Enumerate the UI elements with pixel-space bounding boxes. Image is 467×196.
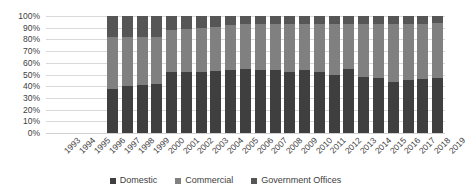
- bar-segment-government-offices: [196, 16, 207, 28]
- bar-segment-government-offices: [107, 16, 118, 37]
- bar-segment-commercial: [107, 37, 118, 88]
- bar-segment-government-offices: [314, 16, 325, 24]
- bar-segment-domestic: [166, 72, 177, 133]
- bar-segment-government-offices: [181, 16, 192, 29]
- bar-segment-government-offices: [225, 16, 236, 25]
- bar-segment-commercial: [329, 24, 340, 74]
- bar-segment-government-offices: [373, 16, 384, 24]
- bar-segment-commercial: [225, 25, 236, 69]
- bar-2001: [166, 16, 177, 133]
- bar-1998: [122, 16, 133, 133]
- bar-segment-domestic: [417, 79, 428, 133]
- y-axis-tick-label: 30%: [23, 94, 40, 103]
- bar-segment-domestic: [403, 80, 414, 133]
- y-axis-tick-label: 10%: [23, 117, 40, 126]
- bar-2015: [373, 16, 384, 133]
- bar-segment-domestic: [343, 69, 354, 133]
- legend-label: Government Offices: [261, 176, 341, 185]
- plot-area: [46, 16, 445, 133]
- bar-2011: [314, 16, 325, 133]
- bar-segment-domestic: [210, 71, 221, 133]
- bar-segment-government-offices: [343, 16, 354, 24]
- bar-segment-domestic: [151, 84, 162, 133]
- y-axis-tick-label: 100%: [18, 12, 40, 21]
- bar-segment-government-offices: [403, 16, 414, 24]
- legend-item-government-offices[interactable]: Government Offices: [251, 176, 341, 185]
- bar-2012: [329, 16, 340, 133]
- bar-segment-commercial: [181, 29, 192, 72]
- bar-segment-domestic: [240, 69, 251, 133]
- y-axis-tick-label: 40%: [23, 82, 40, 91]
- bar-segment-domestic: [137, 85, 148, 133]
- bar-segment-government-offices: [284, 16, 295, 24]
- bar-segment-domestic: [255, 70, 266, 133]
- bar-1997: [107, 16, 118, 133]
- legend-item-domestic[interactable]: Domestic: [110, 176, 158, 185]
- bar-segment-government-offices: [122, 16, 133, 37]
- bar-segment-domestic: [299, 70, 310, 133]
- bar-2004: [210, 16, 221, 133]
- bar-segment-government-offices: [417, 16, 428, 24]
- bar-segment-commercial: [314, 24, 325, 72]
- bar-segment-government-offices: [255, 16, 266, 24]
- legend-item-commercial[interactable]: Commercial: [175, 176, 233, 185]
- bar-series-container: [46, 16, 445, 133]
- bar-segment-domestic: [181, 72, 192, 133]
- bar-2010: [299, 16, 310, 133]
- bar-segment-commercial: [137, 37, 148, 85]
- bar-segment-commercial: [388, 24, 399, 81]
- bar-segment-domestic: [284, 72, 295, 133]
- square-swatch-icon: [175, 178, 181, 184]
- bar-2006: [240, 16, 251, 133]
- bar-segment-commercial: [196, 28, 207, 72]
- x-axis: 1993199419951996199719981999200020012002…: [46, 134, 445, 172]
- bar-segment-commercial: [122, 37, 133, 86]
- bar-2009: [284, 16, 295, 133]
- bar-segment-domestic: [107, 89, 118, 133]
- legend-label: Domestic: [120, 176, 158, 185]
- bar-segment-commercial: [358, 24, 369, 77]
- chart-legend: DomesticCommercialGovernment Offices: [0, 176, 451, 185]
- bar-segment-domestic: [373, 78, 384, 133]
- legend-label: Commercial: [185, 176, 233, 185]
- y-axis-tick-label: 0%: [28, 129, 40, 138]
- bar-segment-domestic: [432, 78, 443, 133]
- bar-segment-commercial: [240, 24, 251, 68]
- bar-segment-commercial: [255, 24, 266, 70]
- bar-segment-government-offices: [151, 16, 162, 37]
- bar-segment-domestic: [225, 70, 236, 133]
- bar-segment-government-offices: [137, 16, 148, 37]
- bar-2019: [432, 16, 443, 133]
- y-axis: 100%90%80%70%60%50%40%30%20%10%0%: [0, 16, 44, 133]
- bar-segment-domestic: [358, 77, 369, 133]
- bar-segment-commercial: [166, 30, 177, 72]
- bar-segment-government-offices: [329, 16, 340, 24]
- y-axis-tick-label: 50%: [23, 70, 40, 79]
- bar-segment-government-offices: [432, 16, 443, 23]
- bar-2007: [255, 16, 266, 133]
- y-axis-tick-label: 60%: [23, 59, 40, 68]
- bar-2016: [388, 16, 399, 133]
- bar-segment-government-offices: [166, 16, 177, 30]
- bar-2018: [417, 16, 428, 133]
- bar-segment-government-offices: [388, 16, 399, 24]
- y-axis-tick-label: 70%: [23, 47, 40, 56]
- bar-2014: [358, 16, 369, 133]
- bar-2005: [225, 16, 236, 133]
- bar-2008: [270, 16, 281, 133]
- square-swatch-icon: [110, 178, 116, 184]
- bar-2003: [196, 16, 207, 133]
- y-axis-tick-label: 80%: [23, 35, 40, 44]
- y-axis-tick-label: 90%: [23, 23, 40, 32]
- square-swatch-icon: [251, 178, 257, 184]
- bar-segment-commercial: [417, 24, 428, 79]
- bar-segment-domestic: [329, 75, 340, 134]
- bar-segment-commercial: [343, 24, 354, 68]
- bar-segment-government-offices: [240, 16, 251, 24]
- y-axis-tick-label: 20%: [23, 105, 40, 114]
- x-axis-tick-label: 2019: [447, 136, 467, 156]
- bar-segment-domestic: [270, 70, 281, 133]
- bar-2017: [403, 16, 414, 133]
- bar-segment-commercial: [403, 24, 414, 80]
